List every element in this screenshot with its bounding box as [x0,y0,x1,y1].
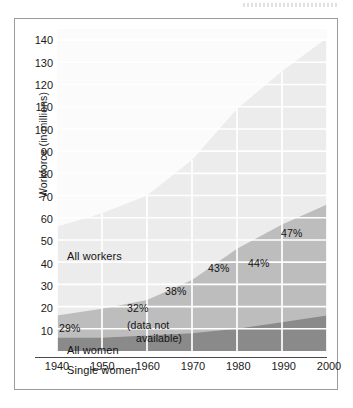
y-tick-100: 100 [35,124,53,135]
percent-label-1940: 29% [59,322,80,334]
x-axis-rule [35,357,327,358]
y-tick-110: 110 [35,102,53,113]
y-tick-120: 120 [35,79,53,90]
chart-plot-area [57,29,327,351]
y-axis-tick-labels: 140130120110100908070605040302010 [23,19,53,389]
y-tick-70: 70 [41,191,53,202]
x-tick-1980: 1980 [226,361,250,372]
x-tick-1960: 1960 [135,361,159,372]
label-all-workers: All workers [67,250,122,263]
y-tick-80: 80 [41,169,53,180]
x-tick-2000: 2000 [317,361,341,372]
percent-label-1980: 43% [208,262,229,274]
x-tick-1970: 1970 [181,361,205,372]
y-tick-140: 140 [35,35,53,46]
percent-label-1970: 38% [165,285,186,297]
x-tick-1990: 1990 [271,361,295,372]
figure-frame: Workforce (in millions) 1401301201101009… [14,18,338,390]
y-tick-40: 40 [41,258,53,269]
label-all-women: All women [67,344,119,357]
note-data-not-available-line1: (data not [127,319,169,331]
y-tick-20: 20 [41,303,53,314]
y-tick-10: 10 [41,325,53,336]
y-tick-130: 130 [35,57,53,68]
y-tick-60: 60 [41,213,53,224]
percent-label-1990: 44% [248,257,269,269]
percent-label-2000: 47% [281,227,302,239]
x-tick-1940: 1940 [45,361,69,372]
stacked-area-chart [57,29,327,351]
scan-artifact-strip [243,3,338,7]
y-tick-50: 50 [41,236,53,247]
percent-label-1960: 32% [127,302,148,314]
y-tick-90: 90 [41,146,53,157]
y-tick-30: 30 [41,280,53,291]
label-single-women: Single women [67,364,137,377]
note-data-not-available-line2: available) [136,332,182,344]
